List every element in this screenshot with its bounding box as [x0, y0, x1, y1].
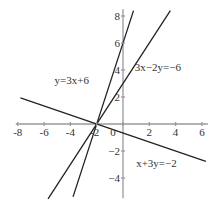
equation-label: 3x−2y=−6 [135, 61, 182, 73]
x-tick-label: 2 [147, 126, 153, 138]
x-tick-label: 0 [110, 126, 116, 138]
equation-label: x+3y=−2 [136, 157, 177, 169]
y-tick-label: 2 [115, 91, 121, 103]
y-tick-label: 6 [115, 37, 121, 49]
x-tick-label: -2 [90, 126, 99, 138]
x-tick-label: 4 [173, 126, 179, 138]
y-tick-label: 8 [115, 10, 121, 22]
x-tick-label: 6 [199, 126, 205, 138]
x-tick-label: -6 [40, 126, 50, 138]
equation-label: y=3x+6 [55, 74, 90, 86]
series-line-3x-2y-6 [48, 11, 170, 199]
y-tick-label: 4 [115, 64, 121, 76]
x-tick-label: -8 [13, 126, 23, 138]
series-line-y-3x-6 [73, 11, 133, 197]
x-tick-label: -4 [66, 126, 76, 138]
chart: -8-6-4-202468642−2−4 y=3x+63x−2y=−6x+3y=… [0, 0, 210, 217]
y-tick-label: −2 [108, 145, 120, 157]
y-tick-label: −4 [108, 172, 120, 184]
